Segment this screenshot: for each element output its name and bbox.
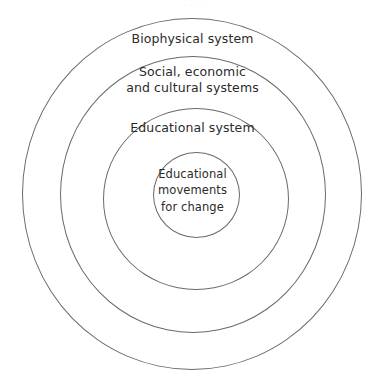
ring-label-educational-movements: Educational movements for change: [0, 166, 385, 215]
cropped-caption-remnant: · ·· ·: [0, 0, 385, 6]
ring-label-social: Social, economic and cultural systems: [0, 64, 385, 97]
nested-systems-diagram: · ·· · Biophysical system Social, econom…: [0, 0, 385, 387]
ring-label-biophysical: Biophysical system: [0, 31, 385, 47]
ring-label-educational-system: Educational system: [0, 120, 385, 136]
